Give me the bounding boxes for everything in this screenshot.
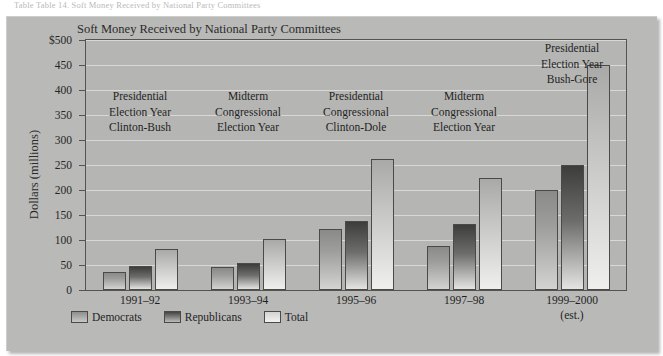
legend-label-total: Total <box>285 311 308 323</box>
bar-republicans-1999-2000 <box>561 165 584 290</box>
legend-item-republicans[interactable]: Republicans <box>164 311 242 323</box>
y-axis-tick-250: 250 <box>12 160 72 170</box>
figure-panel: Soft Money Received by National Party Co… <box>6 16 657 351</box>
y-axis-tick-500: $500 <box>12 35 72 45</box>
annot-1997-98-line-2: Congressional <box>399 105 529 121</box>
annot-1997-98-line-1: Midterm <box>399 89 529 105</box>
annot-1999-2000: PresidentialElection YearBush-Gore <box>507 41 637 88</box>
y-axis-tick-450: 450 <box>12 60 72 70</box>
legend-label-democrats: Democrats <box>92 311 142 323</box>
y-axis-tick-400: 400 <box>12 85 72 95</box>
y-axis-tick-100: 100 <box>12 235 72 245</box>
annot-1997-98: MidtermCongressionalElection Year <box>399 89 529 136</box>
bar-total-1999-2000 <box>587 65 610 290</box>
y-axis-tick-350: 350 <box>12 110 72 120</box>
y-axis-tick-50: 50 <box>12 260 72 270</box>
bar-republicans-1997-98 <box>453 224 476 290</box>
annot-1999-2000-line-3: Bush-Gore <box>507 72 637 88</box>
bar-democrats-1999-2000 <box>535 190 558 290</box>
bar-republicans-1995-96 <box>345 221 368 290</box>
annot-1997-98-line-3: Election Year <box>399 120 529 136</box>
x-axis-tick-1991-92: 1991–92 <box>80 294 200 306</box>
annot-1999-2000-line-1: Presidential <box>507 41 637 57</box>
bar-democrats-1991-92 <box>103 272 126 290</box>
bar-democrats-1993-94 <box>211 267 234 290</box>
legend-item-total[interactable]: Total <box>264 311 308 323</box>
bar-republicans-1991-92 <box>129 266 152 290</box>
bar-total-1993-94 <box>263 239 286 290</box>
legend-item-democrats[interactable]: Democrats <box>71 311 142 323</box>
x-axis-est-note: (est.) <box>512 309 632 321</box>
y-axis-tick-150: 150 <box>12 210 72 220</box>
x-axis-tick-1999-2000: 1999–2000 <box>512 294 632 306</box>
bar-total-1995-96 <box>371 159 394 290</box>
bar-democrats-1995-96 <box>319 229 342 291</box>
legend-swatch-total <box>264 311 281 323</box>
legend-label-republicans: Republicans <box>185 311 242 323</box>
chart-legend: DemocratsRepublicansTotal <box>71 311 308 323</box>
legend-swatch-republicans <box>164 311 181 323</box>
x-axis-tick-1997-98: 1997–98 <box>404 294 524 306</box>
bar-total-1991-92 <box>155 249 178 291</box>
page-caption-line: Table Table 14. Soft Money Received by N… <box>14 0 574 11</box>
y-axis-tick-0: 0 <box>12 285 72 295</box>
bar-democrats-1997-98 <box>427 246 450 290</box>
chart-title: Soft Money Received by National Party Co… <box>77 22 341 37</box>
x-axis-tick-1993-94: 1993–94 <box>188 294 308 306</box>
y-axis-tick-300: 300 <box>12 135 72 145</box>
annot-1999-2000-line-2: Election Year <box>507 57 637 73</box>
y-axis-tick-200: 200 <box>12 185 72 195</box>
bar-republicans-1993-94 <box>237 263 260 291</box>
bar-total-1997-98 <box>479 178 502 291</box>
x-axis-tick-1995-96: 1995–96 <box>296 294 416 306</box>
legend-swatch-democrats <box>71 311 88 323</box>
